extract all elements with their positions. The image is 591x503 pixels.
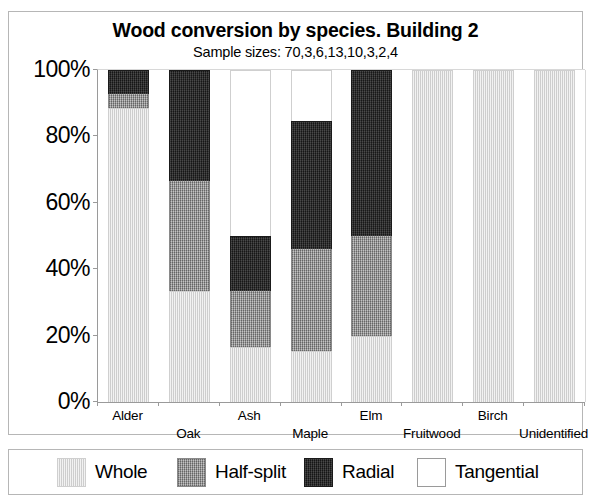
bar-slot [98,70,159,402]
x-axis-labels: AlderOakAshMapleElmFruitwoodBirchUnident… [97,404,584,448]
bar-slot [220,70,281,402]
stacked-bar[interactable] [412,70,453,402]
legend-swatch-icon [177,458,206,487]
stacked-bar[interactable] [291,70,332,402]
y-axis-tick-label: 100% [17,58,97,81]
bar-segment-whole[interactable] [473,70,514,402]
y-axis-tick-label: 80% [17,124,97,147]
legend-swatch-icon [57,458,86,487]
bar-slot [463,70,524,402]
x-axis-label-maple: Maple [292,426,328,441]
bar-segment-whole[interactable] [534,70,575,402]
chart-panel: Wood conversion by species. Building 2 S… [8,11,583,435]
plot-right-border [585,70,586,402]
legend-swatch-icon [304,458,333,487]
legend-item-whole[interactable]: Whole [57,458,147,487]
bar-segment-half[interactable] [230,291,271,346]
bar-segment-half[interactable] [169,181,210,292]
legend-label: Radial [342,461,394,483]
y-axis-tick-label: 0% [17,390,97,413]
bar-segment-whole[interactable] [108,108,149,402]
bar-segment-whole[interactable] [169,291,210,402]
bar-segment-radial[interactable] [291,121,332,249]
bar-segment-radial[interactable] [108,70,149,94]
bar-segment-half[interactable] [351,236,392,336]
legend-item-half-split[interactable]: Half-split [177,458,286,487]
chart-legend: WholeHalf-splitRadialTangential [8,449,583,495]
x-axis-label-elm: Elm [360,408,383,423]
stacked-bar[interactable] [473,70,514,402]
bar-slot [342,70,403,402]
legend-label: Half-split [215,461,286,483]
bar-segment-whole[interactable] [230,347,271,402]
bar-segment-half[interactable] [108,94,149,108]
bar-slot [402,70,463,402]
x-axis-tickmark [584,402,585,406]
bar-segment-whole[interactable] [351,336,392,402]
plot-area [97,69,585,403]
bar-segment-whole[interactable] [291,351,332,402]
chart-title: Wood conversion by species. Building 2 [9,19,582,42]
bar-slot [159,70,220,402]
x-axis-label-alder: Alder [112,408,143,423]
stacked-bar[interactable] [534,70,575,402]
x-axis-label-oak: Oak [176,426,200,441]
legend-item-tangential[interactable]: Tangential [417,458,539,487]
bar-slot [524,70,585,402]
x-axis-label-birch: Birch [478,408,508,423]
bar-segment-tangential[interactable] [291,70,332,121]
y-axis: 0%20%40%60%80%100% [9,69,97,402]
x-axis-label-fruitwood: Fruitwood [403,426,460,441]
y-axis-tick-label: 60% [17,190,97,213]
legend-label: Tangential [455,461,539,483]
x-axis-label-unidentified: Unidentified [519,426,588,441]
x-axis-label-ash: Ash [238,408,261,423]
bar-segment-tangential[interactable] [230,70,271,236]
stacked-bar[interactable] [230,70,271,402]
stacked-bar[interactable] [108,70,149,402]
bar-segment-radial[interactable] [230,236,271,291]
bar-segment-whole[interactable] [412,70,453,402]
stacked-bar[interactable] [351,70,392,402]
legend-item-radial[interactable]: Radial [304,458,394,487]
y-axis-tick-label: 40% [17,257,97,280]
y-axis-tick-label: 20% [17,323,97,346]
legend-label: Whole [95,461,147,483]
legend-swatch-icon [417,458,446,487]
bar-slot [281,70,342,402]
bar-segment-radial[interactable] [351,70,392,236]
bar-segment-radial[interactable] [169,70,210,181]
stacked-bar[interactable] [169,70,210,402]
bar-segment-half[interactable] [291,249,332,351]
